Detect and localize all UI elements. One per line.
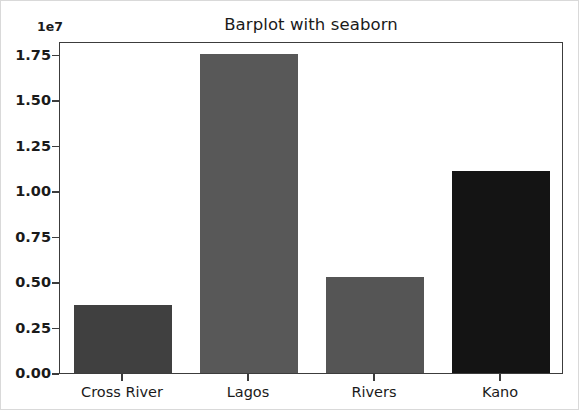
x-tick-mark bbox=[373, 374, 375, 381]
y-tick-mark bbox=[52, 328, 59, 330]
x-tick-label-kano: Kano bbox=[482, 384, 518, 400]
y-tick-label: 0.50 bbox=[7, 274, 51, 290]
x-tick-label-lagos: Lagos bbox=[227, 384, 270, 400]
y-tick-label: 1.25 bbox=[7, 138, 51, 154]
y-tick-mark bbox=[52, 373, 59, 375]
figure-canvas: Barplot with seaborn 1e7 0.000.250.500.7… bbox=[0, 0, 579, 410]
y-tick-mark bbox=[52, 282, 59, 284]
bar-cross-river bbox=[74, 305, 172, 373]
bar-rivers bbox=[326, 277, 424, 373]
y-axis-offset-label: 1e7 bbox=[37, 19, 63, 34]
bar-kano bbox=[452, 171, 550, 373]
plot-area bbox=[59, 42, 563, 374]
x-tick-label-cross-river: Cross River bbox=[81, 384, 163, 400]
y-tick-label: 0.75 bbox=[7, 229, 51, 245]
bar-lagos bbox=[200, 54, 298, 373]
y-tick-mark bbox=[52, 237, 59, 239]
y-tick-label: 1.75 bbox=[7, 47, 51, 63]
chart-title: Barplot with seaborn bbox=[59, 15, 563, 34]
x-tick-mark bbox=[247, 374, 249, 381]
y-tick-label: 1.50 bbox=[7, 92, 51, 108]
y-tick-label: 0.25 bbox=[7, 320, 51, 336]
y-tick-mark bbox=[52, 191, 59, 193]
y-tick-mark bbox=[52, 100, 59, 102]
y-tick-label: 0.00 bbox=[7, 365, 51, 381]
x-tick-mark bbox=[499, 374, 501, 381]
x-tick-label-rivers: Rivers bbox=[351, 384, 396, 400]
y-tick-mark bbox=[52, 146, 59, 148]
y-tick-label: 1.00 bbox=[7, 183, 51, 199]
y-tick-mark bbox=[52, 55, 59, 57]
x-tick-mark bbox=[121, 374, 123, 381]
